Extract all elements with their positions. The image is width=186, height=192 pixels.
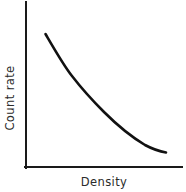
chart-background <box>0 0 186 192</box>
x-axis-label: Density <box>81 175 128 189</box>
chart-figure: Count rate Density <box>0 0 186 192</box>
chart-plot-area: Count rate Density <box>0 0 186 192</box>
y-axis-label: Count rate <box>3 65 17 130</box>
